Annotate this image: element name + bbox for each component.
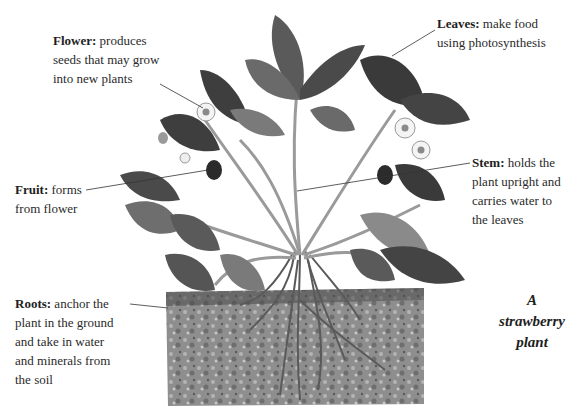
diagram-caption: A strawberry plant [486, 290, 578, 353]
fruit-left [206, 160, 222, 180]
flower-label: Flower: produces seeds that may grow int… [53, 31, 213, 88]
fruits [206, 160, 393, 185]
leaves-label: Leaves: make food using photosynthesis [437, 14, 577, 52]
flower-right-2 [412, 141, 430, 159]
stem-label: Stem: holds the plant upright and carrie… [472, 153, 581, 229]
stem-term: Stem: [472, 155, 505, 170]
flower-term: Flower: [53, 33, 96, 48]
flower-right-1 [395, 118, 415, 138]
flower-bud [158, 132, 168, 144]
flower-small [180, 153, 190, 163]
soil-block [166, 288, 424, 406]
roots-label: Roots: anchor the plant in the ground an… [15, 294, 155, 389]
leaves-leader-line [392, 30, 435, 56]
fruit-term: Fruit: [15, 182, 48, 197]
leaves-term: Leaves: [437, 16, 480, 31]
roots-term: Roots: [15, 296, 51, 311]
flower-left [197, 103, 215, 121]
fruit-label: Fruit: forms from flower [15, 180, 115, 218]
fruit-right [377, 165, 393, 185]
